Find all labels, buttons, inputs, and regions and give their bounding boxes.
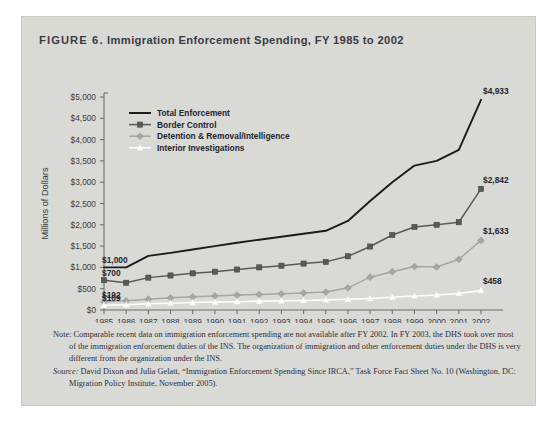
svg-text:1990: 1990 xyxy=(206,317,225,323)
svg-text:Border Control: Border Control xyxy=(157,120,217,130)
svg-text:$3,000: $3,000 xyxy=(71,177,97,187)
svg-text:Total Enforcement: Total Enforcement xyxy=(157,108,230,118)
svg-text:2000: 2000 xyxy=(427,317,446,323)
x-axis-ticks xyxy=(104,310,481,314)
y-axis-tick-labels: $0$500$1,000$1,500$2,000$2,500$3,000$3,5… xyxy=(71,92,97,315)
svg-text:$4,500: $4,500 xyxy=(71,113,97,123)
svg-text:1985: 1985 xyxy=(95,317,114,323)
line-chart: $0$500$1,000$1,500$2,000$2,500$3,000$3,5… xyxy=(22,55,537,323)
x-axis-tick-labels: 1985198619871988198919901991199219931994… xyxy=(95,317,491,323)
svg-text:$4,933: $4,933 xyxy=(483,86,509,96)
figure-title-text: Immigration Enforcement Spending, FY 198… xyxy=(107,34,404,46)
svg-text:Interior Investigations: Interior Investigations xyxy=(157,143,245,153)
svg-text:$1,000: $1,000 xyxy=(71,262,97,272)
svg-text:$1,633: $1,633 xyxy=(483,226,509,236)
svg-text:2002: 2002 xyxy=(472,317,491,323)
svg-text:1987: 1987 xyxy=(139,317,158,323)
svg-text:Millions of Dollars: Millions of Dollars xyxy=(40,167,50,239)
svg-text:Detention & Removal/Intelligen: Detention & Removal/Intelligence xyxy=(157,131,290,141)
svg-text:$3,500: $3,500 xyxy=(71,156,97,166)
svg-text:1999: 1999 xyxy=(405,317,424,323)
svg-text:2001: 2001 xyxy=(450,317,469,323)
svg-text:$2,842: $2,842 xyxy=(483,175,509,185)
svg-text:$2,500: $2,500 xyxy=(71,199,97,209)
source-paragraph: Source: David Dixon and Julia Gelatt, “I… xyxy=(53,366,521,390)
svg-text:1997: 1997 xyxy=(361,317,380,323)
svg-text:1994: 1994 xyxy=(294,317,313,323)
svg-text:1992: 1992 xyxy=(250,317,269,323)
svg-text:1988: 1988 xyxy=(161,317,180,323)
note-text: Comparable recent data on immigration en… xyxy=(69,330,521,363)
figure-number: FIGURE 6. xyxy=(39,34,104,46)
figure-title: FIGURE 6. Immigration Enforcement Spendi… xyxy=(39,34,404,46)
figure-notes: Note: Comparable recent data on immigrat… xyxy=(53,329,521,392)
svg-text:$700: $700 xyxy=(102,268,121,278)
series-value-labels: $1,000$4,933$700$2,842$192$1,633$109$458 xyxy=(102,86,509,304)
svg-text:$1,500: $1,500 xyxy=(71,241,97,251)
svg-text:1989: 1989 xyxy=(183,317,202,323)
svg-text:$5,000: $5,000 xyxy=(71,92,97,102)
svg-text:1993: 1993 xyxy=(272,317,291,323)
svg-text:1995: 1995 xyxy=(317,317,336,323)
chart-legend: Total EnforcementBorder ControlDetention… xyxy=(129,108,290,153)
svg-text:1996: 1996 xyxy=(339,317,358,323)
svg-text:$4,000: $4,000 xyxy=(71,135,97,145)
source-text: David Dixon and Julia Gelatt, “Immigrati… xyxy=(69,367,516,388)
note-paragraph: Note: Comparable recent data on immigrat… xyxy=(53,329,521,364)
svg-text:1991: 1991 xyxy=(228,317,247,323)
svg-text:$500: $500 xyxy=(78,284,97,294)
svg-text:$1,000: $1,000 xyxy=(102,255,128,265)
svg-text:$458: $458 xyxy=(483,276,502,286)
svg-text:1986: 1986 xyxy=(117,317,136,323)
source-label: Source: xyxy=(53,367,79,376)
svg-text:1998: 1998 xyxy=(383,317,402,323)
figure-panel: FIGURE 6. Immigration Enforcement Spendi… xyxy=(21,16,536,406)
y-axis-title: Millions of Dollars xyxy=(40,167,50,239)
svg-text:$2,000: $2,000 xyxy=(71,220,97,230)
svg-text:$109: $109 xyxy=(102,293,121,303)
note-label: Note: xyxy=(53,330,71,339)
chart-area: $0$500$1,000$1,500$2,000$2,500$3,000$3,5… xyxy=(22,55,537,323)
svg-text:$0: $0 xyxy=(87,305,97,315)
